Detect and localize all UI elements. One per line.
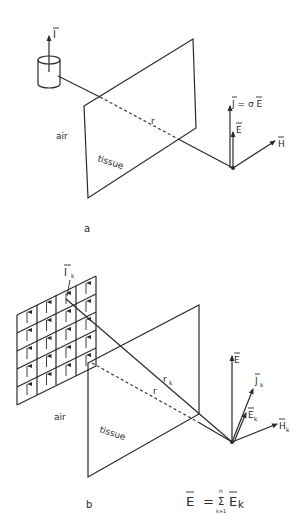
- current-element-grid: [17, 276, 96, 405]
- vector-Jk-label: J: [254, 376, 258, 386]
- leader-line: [67, 280, 70, 296]
- source-label-Ik: I: [64, 267, 67, 278]
- tissue-label: tissue: [98, 424, 127, 442]
- tissue-label: tissue: [96, 153, 125, 171]
- subscript: k: [286, 426, 290, 433]
- sum-symbol: Σ: [218, 496, 224, 507]
- panel-label-b: b: [86, 499, 92, 510]
- r-line-back: [198, 422, 232, 442]
- subscript: k: [260, 381, 264, 388]
- r-line-front: [58, 76, 100, 97]
- subscript: k: [71, 272, 75, 279]
- sum-upper: n: [219, 487, 223, 494]
- superposition-equation: E = Σ n k=1 E k: [186, 487, 244, 514]
- air-label: air: [56, 131, 68, 141]
- figure-b: I k air tissue r k r E J k E k H k b: [17, 265, 290, 514]
- source-label-I: I: [53, 29, 56, 40]
- vector-Hk-label: H: [279, 421, 286, 431]
- equation-term: E: [229, 494, 237, 509]
- distance-label-rk: r: [163, 374, 167, 384]
- subscript: k: [169, 379, 173, 386]
- current-source-cylinder: [38, 36, 60, 88]
- panel-label-a: a: [84, 223, 90, 234]
- vector-E-label: E: [236, 125, 242, 135]
- equation-equals: =: [203, 494, 214, 509]
- vector-J-label: J = σ E: [231, 99, 262, 109]
- distance-label-r: r: [151, 116, 155, 126]
- air-label: air: [54, 412, 66, 422]
- r-line-hidden: [100, 97, 180, 140]
- rk-line: [66, 299, 232, 442]
- vector-H-icon: [233, 141, 275, 168]
- vector-E-label: E: [234, 355, 240, 365]
- tissue-plane: [88, 305, 199, 477]
- distance-label-r: r: [153, 386, 157, 396]
- r-line-back: [180, 140, 233, 168]
- equation-term-sub: k: [238, 499, 244, 510]
- vector-H-label: H: [278, 139, 285, 149]
- equation-lhs: E: [186, 494, 194, 509]
- diagram-canvas: I air tissue r J = σ E E H a: [0, 0, 306, 532]
- subscript: k: [254, 415, 258, 422]
- vector-Hk-icon: [232, 424, 277, 442]
- figure-a: I air tissue r J = σ E E H a: [38, 28, 285, 234]
- sum-lower: k=1: [216, 508, 226, 514]
- r-line-hidden: [92, 363, 198, 422]
